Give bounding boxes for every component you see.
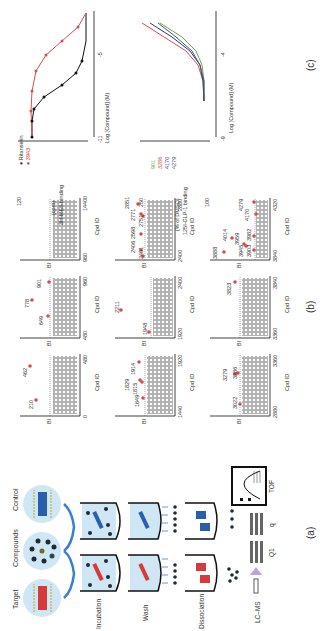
tof-label: TOF xyxy=(268,480,275,493)
hit-label: 3982 xyxy=(246,229,252,241)
x-tick: 960 xyxy=(82,277,88,286)
x-tick: -4 xyxy=(220,52,226,57)
y-axis-label: BI xyxy=(141,419,147,424)
hit-label: 3945 xyxy=(238,245,244,257)
y-axis-label: 125I-GLP-1 binding xyxy=(182,187,188,235)
step-label-dissociation: Dissociation xyxy=(198,594,205,629)
y-tick: 100 xyxy=(204,198,210,207)
y-axis-label: BI xyxy=(236,341,242,346)
y-axis-label: BI xyxy=(46,341,52,346)
hit-label: 649 xyxy=(38,316,44,325)
y-axis-unit: (% of DMSO) xyxy=(174,198,180,231)
x-tick: 1920 xyxy=(177,355,183,367)
x-axis-label: Cpd ID xyxy=(284,374,290,391)
y-axis-label: BI xyxy=(236,419,242,424)
x-axis-label: Cpd ID xyxy=(94,374,100,391)
x-tick: 960 xyxy=(82,253,88,262)
dose-response-plots xyxy=(0,1,280,181)
y-tick: 0 xyxy=(82,196,88,199)
legend-3943: ● 3943 xyxy=(25,148,31,165)
legend-4279: 4279 xyxy=(171,157,177,169)
q-label: q xyxy=(268,523,275,527)
x-tick: -9 xyxy=(220,136,226,141)
x-tick: 3360 xyxy=(272,355,278,367)
x-tick: 0 xyxy=(82,415,88,418)
hit-label: 2406 xyxy=(130,241,136,253)
hit-label: 3279 xyxy=(222,369,228,381)
hit-label: 1948 xyxy=(142,323,148,335)
legend-ritanserin: ● Ritanserin xyxy=(18,135,24,165)
hit-label: 3823 xyxy=(226,283,232,295)
dissociation-wells xyxy=(185,503,239,591)
x-axis-label: Log [Compound] (M) xyxy=(104,93,110,143)
panel-label-c: (c) xyxy=(305,59,316,71)
hit-label: 4279 xyxy=(238,199,244,211)
scatter-grid xyxy=(0,176,300,426)
glp1-plot xyxy=(140,11,216,141)
x-tick: 3840 xyxy=(272,250,278,262)
x-tick: 1440 xyxy=(177,406,183,418)
x-tick: 3840 xyxy=(272,277,278,289)
legend-4170: 4170 xyxy=(164,157,170,169)
hit-label: 2598 xyxy=(130,227,136,239)
step-label-wash: Wash xyxy=(142,605,149,621)
hit-label: 4014 xyxy=(222,229,228,241)
ritanserin-plot xyxy=(18,11,94,141)
y-axis-label: BI xyxy=(46,419,52,424)
x-axis-label: Log [Compound] (M) xyxy=(228,83,234,133)
workflow-illustration xyxy=(0,421,300,631)
legend-901: 901 xyxy=(150,160,156,169)
hit-label: 2211 xyxy=(114,301,120,313)
x-axis-label: Cpd ID xyxy=(189,296,195,313)
x-tick: 3360 xyxy=(272,328,278,340)
scatter-plot-8 xyxy=(210,276,270,338)
x-tick: 480 xyxy=(82,355,88,364)
x-tick: 2400 xyxy=(177,250,183,262)
lc-ms-instrument xyxy=(232,467,266,593)
figure-canvas: Target Compounds Control xyxy=(0,0,332,631)
panel-label-a: (a) xyxy=(305,527,316,539)
hit-label: 3903 xyxy=(246,245,252,257)
scatter-plot-7 xyxy=(210,354,270,416)
hit-label: 1914 xyxy=(130,363,136,375)
hit-label: 3286 xyxy=(232,367,238,379)
x-tick: 2880 xyxy=(272,406,278,418)
y-axis-label: BI xyxy=(141,263,147,268)
hit-label: 4170 xyxy=(244,209,250,221)
legend-3286: 3286 xyxy=(157,157,163,169)
q1-label: Q1 xyxy=(268,548,275,557)
panel-label-b: (b) xyxy=(305,301,316,313)
hit-label: 210 xyxy=(28,400,34,409)
y-axis-label: BI xyxy=(236,263,242,268)
hit-label: 2751 xyxy=(138,215,144,227)
y-tick: 120 xyxy=(16,197,22,206)
legend-label: 3943 xyxy=(25,148,31,160)
x-tick: 2400 xyxy=(177,277,183,289)
lcms-label: LC–MS xyxy=(254,601,261,623)
hit-label: 2771 xyxy=(130,209,136,221)
hit-label: 778 xyxy=(24,299,30,308)
hit-label: 901 xyxy=(36,279,42,288)
y-axis-label: BI xyxy=(141,341,147,346)
hit-label: 3022 xyxy=(232,397,238,409)
hit-label: 3959 xyxy=(234,233,240,245)
hit-label: 1829 xyxy=(124,379,130,391)
y-axis-label: BI xyxy=(46,263,52,268)
step-label-incubation: Incubation xyxy=(95,599,102,629)
y-axis-label: 3H-MES binding xyxy=(58,185,64,225)
x-tick: -11 xyxy=(97,135,103,143)
x-tick: 4320 xyxy=(272,199,278,211)
hit-label: 2401 xyxy=(138,247,144,259)
x-tick: 1440 xyxy=(82,199,88,211)
hit-label: 1815 xyxy=(132,383,138,395)
x-tick: -5 xyxy=(97,52,103,57)
wash-wells xyxy=(128,503,177,591)
x-axis-label: Cpd ID xyxy=(94,218,100,235)
x-tick: 480 xyxy=(82,331,88,340)
legend-label: Ritanserin xyxy=(18,135,24,160)
x-tick: 1920 xyxy=(177,328,183,340)
incubation-wells xyxy=(80,503,120,591)
hit-label: 2851 xyxy=(124,197,130,209)
y-tick: 250 xyxy=(138,198,144,207)
x-axis-label: Cpd ID xyxy=(189,374,195,391)
